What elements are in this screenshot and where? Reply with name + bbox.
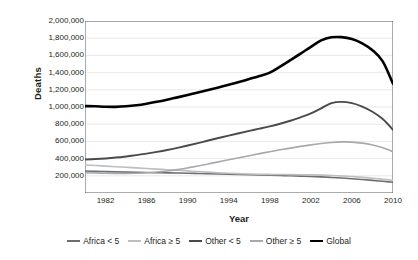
legend-color-swatch <box>67 240 80 242</box>
y-tick-label: 800,000 <box>30 120 84 128</box>
legend-color-swatch <box>128 240 141 242</box>
y-tick-label: 1,200,000 <box>30 86 84 94</box>
y-tick-label: 600,000 <box>30 137 84 145</box>
series-line <box>85 142 393 174</box>
y-tick-label: 1,800,000 <box>30 34 84 42</box>
legend-color-swatch <box>250 240 263 242</box>
y-tick-label: 200,000 <box>30 172 84 180</box>
y-tick-label: 1,400,000 <box>30 69 84 77</box>
y-tick-label: 400,000 <box>30 155 84 163</box>
series-line <box>85 37 393 107</box>
x-tick-label: 2002 <box>291 196 331 205</box>
legend-item[interactable]: Global <box>310 236 351 246</box>
legend-item[interactable]: Other < 5 <box>189 236 241 246</box>
x-tick-label: 1986 <box>127 196 167 205</box>
x-tick-label: 1990 <box>168 196 208 205</box>
legend-label: Other < 5 <box>205 236 241 246</box>
legend-label: Other ≥ 5 <box>266 236 301 246</box>
x-tick-label: 1982 <box>86 196 126 205</box>
chart-legend: Africa < 5Africa ≥ 5Other < 5Other ≥ 5Gl… <box>0 236 418 246</box>
legend-label: Global <box>326 236 351 246</box>
series-line <box>85 102 393 160</box>
x-axis-tick-labels: 19821986199019941998200220062010 <box>85 196 393 210</box>
legend-label: Africa ≥ 5 <box>144 236 180 246</box>
legend-item[interactable]: Africa < 5 <box>67 236 119 246</box>
legend-item[interactable]: Africa ≥ 5 <box>128 236 180 246</box>
legend-color-swatch <box>310 240 323 243</box>
plot-svg <box>85 21 393 193</box>
y-tick-label: 2,000,000 <box>30 17 84 25</box>
line-chart: Deaths 200,000400,000600,000800,0001,000… <box>0 0 418 260</box>
y-tick-label: 1,000,000 <box>30 103 84 111</box>
x-tick-label: 2006 <box>332 196 372 205</box>
plot-area <box>85 21 393 193</box>
y-axis-tick-labels: 200,000400,000600,000800,0001,000,0001,2… <box>26 0 84 260</box>
y-tick-label: 1,600,000 <box>30 51 84 59</box>
x-tick-label: 1994 <box>209 196 249 205</box>
legend-item[interactable]: Other ≥ 5 <box>250 236 301 246</box>
legend-label: Africa < 5 <box>83 236 119 246</box>
x-axis-title: Year <box>85 213 393 224</box>
legend-color-swatch <box>189 240 202 242</box>
x-tick-label: 1998 <box>250 196 290 205</box>
x-tick-label: 2010 <box>373 196 413 205</box>
